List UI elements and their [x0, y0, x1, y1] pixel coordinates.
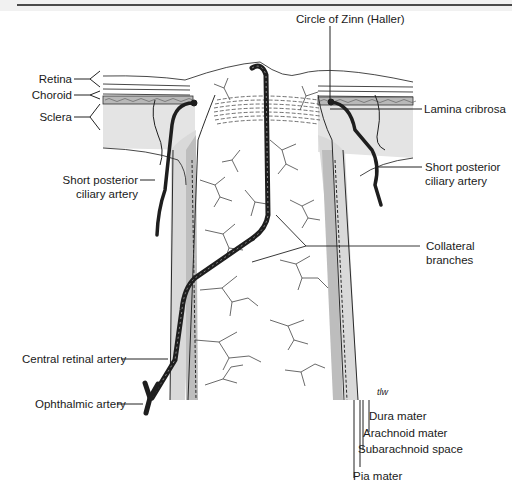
label-lamina-cribrosa: Lamina cribrosa [424, 103, 506, 116]
label-choroid: Choroid [20, 89, 72, 102]
label-circle-of-zinn: Circle of Zinn (Haller) [296, 13, 405, 26]
label-short-posterior-ciliary-right-line1: Short posterior [425, 161, 500, 174]
label-dura-mater: Dura mater [369, 410, 427, 423]
label-short-posterior-ciliary-left-line1: Short posterior [40, 174, 138, 187]
label-short-posterior-ciliary-right-line2: ciliary artery [425, 175, 487, 188]
label-pia-mater: Pia mater [353, 470, 402, 483]
artist-signature: tlw [377, 386, 388, 399]
label-collateral-line1: Collateral [426, 240, 475, 253]
label-ophthalmic-artery: Ophthalmic artery [35, 398, 126, 411]
label-sclera: Sclera [20, 111, 72, 124]
label-retina: Retina [20, 73, 72, 86]
label-central-retinal-artery: Central retinal artery [22, 353, 126, 366]
label-collateral-line2: branches [426, 254, 473, 267]
label-arachnoid-mater: Arachnoid mater [363, 427, 447, 440]
label-short-posterior-ciliary-left-line2: ciliary artery [40, 188, 138, 201]
label-subarachnoid-space: Subarachnoid space [358, 443, 463, 456]
ophthalmic-artery [145, 383, 158, 413]
choroid-layer [103, 96, 416, 105]
